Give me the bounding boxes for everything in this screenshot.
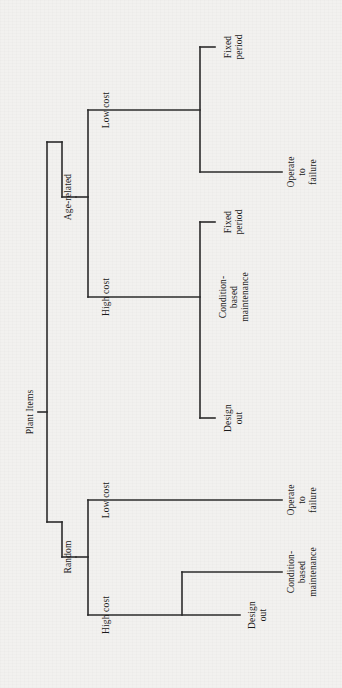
label-random-low-operate-to-failure: Operate to failure <box>286 484 319 515</box>
label-age-high-cost: High cost <box>101 278 112 316</box>
label-random-high-condition-based: Condition- based maintenance <box>286 547 319 597</box>
label-age-low-fixed-period: Fixed period <box>223 34 245 59</box>
label-plant-items: Plant Items <box>25 390 36 435</box>
label-age-low-cost: Low cost <box>101 92 112 128</box>
label-age-high-condition-based: Condition- based maintenance <box>218 272 251 322</box>
label-age-high-design-out: Design out <box>223 404 245 432</box>
label-random: Random <box>63 540 74 573</box>
label-random-high-cost: High cost <box>101 596 112 634</box>
label-age-high-fixed-period: Fixed period <box>223 209 245 234</box>
label-random-high-design-out: Design out <box>247 601 269 629</box>
label-age-related: Age-related <box>63 174 74 220</box>
label-age-low-operate-to-failure: Operate to failure <box>286 156 319 187</box>
decision-tree-diagram: Plant Items Age-related Random Low cost … <box>0 0 342 688</box>
label-random-low-cost: Low cost <box>101 482 112 518</box>
